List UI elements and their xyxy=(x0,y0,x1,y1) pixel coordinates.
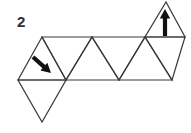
strip-up-1 xyxy=(18,37,66,80)
arrow-shaft xyxy=(33,57,46,68)
strip-up-3 xyxy=(119,37,172,80)
triangle-net-diagram xyxy=(0,0,191,133)
direction-arrows-group xyxy=(33,9,170,73)
triangle-faces-group xyxy=(18,2,185,122)
up-arrow xyxy=(160,9,170,36)
down-right-arrow xyxy=(33,57,51,73)
figure-canvas: 2 xyxy=(0,0,191,133)
strip-down-2 xyxy=(92,37,145,80)
lower-tab-triangle xyxy=(18,80,66,122)
strip-down-1 xyxy=(42,37,92,80)
strip-up-2 xyxy=(66,37,119,80)
strip-down-3 xyxy=(145,37,185,80)
